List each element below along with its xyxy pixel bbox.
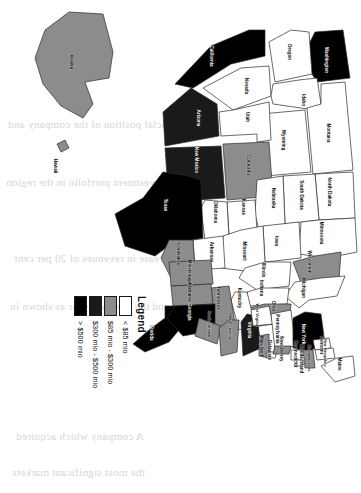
- state-label-wi: Wisconsin: [307, 251, 312, 274]
- state-label-co: Colorado: [246, 155, 251, 175]
- legend-label-over-500: > $500 mio: [76, 321, 85, 358]
- legend-title: Legend: [136, 296, 147, 414]
- legend-item-85-300: $85 mio - $300 mio: [104, 296, 117, 414]
- state-label-il: Illinois: [261, 263, 266, 278]
- state-label-ok: Oklahoma: [213, 201, 218, 224]
- state-label-fl: Florida: [149, 325, 154, 341]
- map-legend: Legend < $85 mio$85 mio - $300 mio$300 m…: [72, 296, 147, 414]
- legend-swatch-under-85: [119, 296, 132, 316]
- state-ak[interactable]: [35, 12, 113, 118]
- state-label-va: Virginia: [247, 322, 252, 339]
- state-label-ga: Georgia: [187, 303, 192, 321]
- state-label-id: Idaho: [301, 94, 306, 106]
- state-label-ny: New York: [301, 324, 306, 345]
- state-label-ut: Utah: [245, 112, 250, 122]
- state-label-wy: Wyoming: [281, 130, 286, 151]
- rotated-figure: WashingtonOregonCaliforniaNevadaIdahoMon…: [0, 0, 361, 493]
- state-label-hi: Hawaii: [53, 159, 58, 174]
- state-label-oh: Ohio: [271, 301, 276, 312]
- state-label-nm: New Mexico: [194, 147, 199, 173]
- state-id[interactable]: [271, 78, 321, 110]
- state-label-ct: Connecticut: [293, 341, 298, 368]
- state-label-wa: Washington: [324, 47, 329, 73]
- state-al[interactable]: [171, 284, 213, 306]
- state-label-ne: Nebraska: [271, 188, 276, 209]
- state-label-de: Delaware: [267, 340, 272, 361]
- state-ia[interactable]: [263, 222, 301, 262]
- state-label-ca: California: [209, 45, 214, 67]
- state-label-nh: New Hampshire: [323, 339, 327, 367]
- state-label-sc: South Carolina: [207, 311, 211, 338]
- state-label-mt: Montana: [326, 124, 331, 143]
- state-label-wv: West Virginia: [255, 303, 259, 327]
- state-label-az: Arizona: [196, 110, 201, 127]
- state-label-nv: Nevada: [244, 78, 249, 95]
- state-label-ms: Mississippi: [187, 260, 192, 285]
- state-az[interactable]: [163, 88, 219, 146]
- state-label-la: Louisiana: [176, 243, 181, 265]
- us-map-svg[interactable]: WashingtonOregonCaliforniaNevadaIdahoMon…: [0, 0, 361, 493]
- state-hi[interactable]: [57, 140, 69, 152]
- state-label-in: Indiana: [259, 280, 264, 297]
- state-mi[interactable]: [285, 276, 345, 308]
- legend-swatch-over-500: [74, 296, 87, 316]
- legend-label-300-500: $300 mio - $500 mio: [91, 321, 100, 388]
- legend-label-85-300: $85 mio - $300 mio: [106, 321, 115, 384]
- state-label-mn: Minnesota: [319, 222, 324, 245]
- state-label-tx: Texas: [163, 199, 168, 212]
- state-label-md: Maryland: [259, 336, 264, 356]
- state-label-nj: New Jersey: [279, 336, 284, 362]
- state-label-sd: South Dakota: [299, 180, 304, 210]
- state-label-ak: Alaska: [69, 55, 74, 70]
- state-label-mo: Missouri: [242, 242, 247, 261]
- legend-item-over-500: > $500 mio: [74, 296, 87, 414]
- state-label-ar: Arkansas: [209, 242, 214, 263]
- state-label-ma: Massachusetts: [307, 345, 311, 371]
- state-nd[interactable]: [315, 172, 355, 220]
- legend-swatch-300-500: [89, 296, 102, 316]
- state-label-tn: Tennessee: [216, 286, 221, 310]
- legend-item-300-500: $300 mio - $500 mio: [89, 296, 102, 414]
- state-label-al: Alabama: [187, 282, 192, 302]
- state-label-ky: Kentucky: [237, 288, 242, 309]
- legend-item-under-85: < $85 mio: [119, 296, 132, 414]
- legend-rows: < $85 mio$85 mio - $300 mio$300 mio - $5…: [74, 296, 132, 414]
- state-label-or: Oregon: [287, 44, 292, 61]
- legend-label-under-85: < $85 mio: [121, 321, 130, 354]
- state-label-nd: North Dakota: [327, 178, 332, 207]
- state-label-mi: Michigan: [301, 278, 306, 298]
- state-wa[interactable]: [309, 30, 350, 82]
- state-in[interactable]: [247, 288, 289, 306]
- state-label-me: Maine: [337, 357, 342, 370]
- legend-swatch-85-300: [104, 296, 117, 316]
- state-label-ia: Iowa: [274, 236, 279, 247]
- state-label-ks: Kansas: [241, 199, 246, 216]
- state-label-ri: Rhode Island: [299, 345, 304, 374]
- state-label-nc: North Carolina: [228, 314, 232, 341]
- choropleth-map[interactable]: WashingtonOregonCaliforniaNevadaIdahoMon…: [0, 0, 361, 493]
